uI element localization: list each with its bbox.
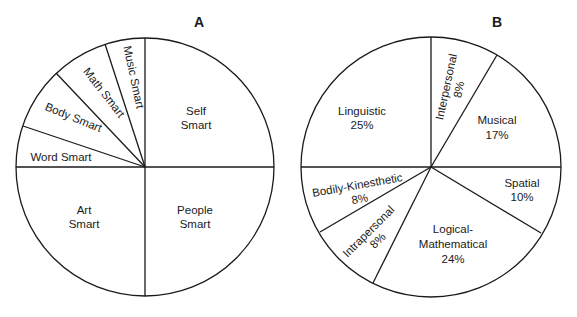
label-self-smart-1: Self: [186, 105, 207, 117]
pie-chart-a: A Self Smart People Smart Art Smart Word…: [16, 14, 274, 296]
label-people-smart-2: Smart: [180, 218, 211, 230]
label-bodily-kinesthetic-pct: 8%: [351, 191, 369, 206]
label-musical-pct: 17%: [485, 129, 508, 141]
label-logical-mathematical-2: Mathematical: [419, 238, 487, 250]
pie-charts-figure: A Self Smart People Smart Art Smart Word…: [0, 0, 577, 317]
label-people-smart-1: People: [177, 204, 213, 216]
label-musical: Musical: [478, 114, 517, 126]
label-logical-mathematical-pct: 24%: [441, 253, 464, 265]
label-logical-mathematical-1: Logical-: [433, 223, 473, 235]
label-linguistic-pct: 25%: [350, 119, 373, 131]
label-art-smart-1: Art: [77, 204, 93, 216]
label-interpersonal-pct: 8%: [451, 80, 466, 99]
chart-a-title: A: [194, 14, 204, 30]
label-group-interpersonal: Interpersonal 8%: [433, 53, 471, 124]
label-intrapersonal: Intrapersonal: [340, 203, 396, 259]
pie-chart-b: B Linguistic 25% Interpersonal 8% Musica…: [301, 14, 561, 297]
label-spatial-pct: 10%: [510, 191, 533, 203]
label-music-smart: Music Smart: [121, 45, 146, 111]
label-body-smart: Body Smart: [43, 100, 104, 134]
label-group-bodily-kinesthetic: Bodily-Kinesthetic 8%: [311, 171, 406, 213]
label-self-smart-2: Smart: [181, 119, 212, 131]
label-spatial: Spatial: [504, 177, 539, 189]
label-word-smart: Word Smart: [30, 151, 92, 163]
chart-b-title: B: [492, 14, 502, 30]
label-art-smart-2: Smart: [69, 218, 100, 230]
label-linguistic: Linguistic: [338, 105, 386, 117]
